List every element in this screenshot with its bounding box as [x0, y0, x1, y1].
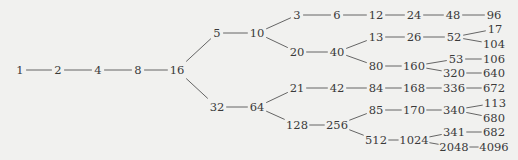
- collatz-tree-diagram: 1248165103264361224489620401326521710480…: [0, 0, 518, 160]
- edge-16-32: [186, 79, 208, 99]
- node-80: 80: [369, 59, 384, 73]
- edge-64-128: [266, 111, 285, 119]
- node-512: 512: [365, 133, 387, 147]
- node-336: 336: [443, 81, 465, 95]
- node-106: 106: [483, 52, 505, 66]
- node-84: 84: [369, 81, 384, 95]
- edge-256-85: [349, 114, 367, 121]
- node-17: 17: [488, 22, 503, 36]
- node-53: 53: [449, 52, 464, 66]
- edge-256-512: [349, 130, 363, 136]
- node-16: 16: [170, 63, 185, 77]
- node-1: 1: [16, 63, 23, 77]
- node-6: 6: [333, 8, 340, 22]
- node-682: 682: [483, 125, 505, 139]
- node-26: 26: [407, 30, 422, 44]
- edge-40-80: [346, 55, 367, 62]
- node-168: 168: [403, 81, 425, 95]
- node-3: 3: [293, 8, 300, 22]
- node-48: 48: [446, 8, 461, 22]
- edge-52-17: [463, 31, 486, 35]
- node-40: 40: [330, 45, 345, 59]
- node-2048: 2048: [439, 140, 468, 154]
- node-24: 24: [407, 8, 422, 22]
- node-4096: 4096: [479, 140, 508, 154]
- node-42: 42: [330, 81, 345, 95]
- edge-10-20: [266, 37, 288, 47]
- node-340: 340: [443, 103, 465, 117]
- node-680: 680: [483, 111, 505, 125]
- node-10: 10: [250, 26, 265, 40]
- tree-nodes: 1248165103264361224489620401326521710480…: [16, 8, 508, 154]
- node-32: 32: [210, 100, 225, 114]
- node-64: 64: [250, 100, 265, 114]
- node-12: 12: [369, 8, 384, 22]
- node-160: 160: [403, 59, 425, 73]
- node-5: 5: [213, 26, 220, 40]
- node-672: 672: [483, 81, 505, 95]
- node-1024: 1024: [399, 133, 428, 147]
- node-13: 13: [369, 30, 384, 44]
- edge-16-5: [186, 39, 211, 62]
- node-52: 52: [447, 30, 462, 44]
- node-2: 2: [54, 63, 61, 77]
- node-85: 85: [369, 103, 384, 117]
- node-341: 341: [443, 125, 465, 139]
- edge-40-13: [346, 41, 367, 49]
- node-20: 20: [290, 45, 305, 59]
- edge-64-21: [266, 92, 288, 102]
- node-113: 113: [484, 96, 506, 110]
- node-320: 320: [443, 66, 465, 80]
- edge-52-104: [463, 39, 482, 42]
- node-21: 21: [290, 81, 305, 95]
- node-256: 256: [326, 118, 348, 132]
- node-4: 4: [94, 63, 101, 77]
- node-8: 8: [134, 63, 141, 77]
- edge-1024-2048: [429, 143, 438, 145]
- edge-160-53: [426, 61, 447, 64]
- node-170: 170: [403, 103, 425, 117]
- edge-340-113: [466, 105, 482, 108]
- node-640: 640: [483, 66, 505, 80]
- node-128: 128: [286, 118, 308, 132]
- edge-160-320: [426, 68, 441, 71]
- node-96: 96: [487, 8, 502, 22]
- edge-1024-341: [429, 134, 441, 136]
- edge-10-3: [266, 18, 291, 29]
- node-104: 104: [483, 37, 505, 51]
- edge-340-680: [466, 112, 481, 115]
